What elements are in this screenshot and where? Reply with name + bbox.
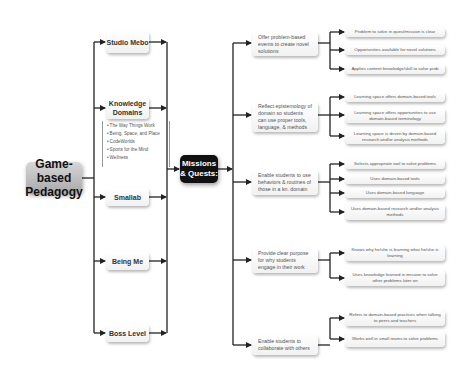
outcome-box: Uses domain-based language	[345, 188, 445, 198]
outcome-box: Problem to solve in quest/mission is cle…	[345, 27, 445, 37]
domain-item: Being, Space, and Place	[107, 130, 169, 138]
outcome-label: Knows why he/she is learning what he/she…	[348, 247, 442, 259]
component-studio-mebo: Studio Mebo	[106, 31, 149, 53]
outcome-box: Learning space is driven by domain-based…	[345, 129, 445, 144]
outcome-label: Uses domain-based research and/or analys…	[348, 206, 442, 218]
outcome-box: Uses knowledge learned in mission to sol…	[345, 270, 445, 286]
outcome-box: Applies content knowledge/skill to solve…	[345, 64, 445, 74]
outcome-label: Learning space offers opportunities to u…	[348, 110, 442, 122]
outcome-label: Opportunities available for novel soluti…	[354, 47, 435, 53]
goal-label: Reflect epistemology of domain so studen…	[258, 103, 312, 131]
outcome-label: Works well in small teams to solve probl…	[352, 336, 438, 342]
outcome-label: Learning space is driven by domain-based…	[348, 131, 442, 143]
outcome-box: Uses domain-based research and/or analys…	[345, 204, 445, 220]
outcome-box: Works well in small teams to solve probl…	[345, 331, 445, 347]
root-label: Game-based Pedagogy	[25, 157, 82, 199]
component-label: Smallab	[114, 193, 141, 202]
root-node-game-based-pedagogy: Game-based Pedagogy	[26, 162, 82, 194]
outcome-box: Learning space offers opportunities to u…	[345, 108, 445, 123]
outcome-label: Learning space offers domain-based tools	[354, 94, 436, 100]
goal-label: Enable students to collaborate with othe…	[258, 338, 312, 352]
domain-item: Sports for the Mind	[107, 146, 169, 154]
domain-item: The Way Things Work	[107, 122, 169, 130]
goal-reflect-epistemology: Reflect epistemology of domain so studen…	[252, 102, 318, 132]
component-knowledge-domains: Knowledge Domains	[106, 97, 149, 119]
outcome-box: Refers to domain-based practices when ta…	[345, 310, 445, 326]
domain-item: CodeWorlds	[107, 138, 169, 146]
goal-collaborate: Enable students to collaborate with othe…	[252, 335, 318, 355]
component-label: Being Me	[112, 257, 143, 266]
component-label: Knowledge Domains	[106, 99, 149, 117]
outcome-box: Learning space offers domain-based tools	[345, 92, 445, 102]
outcome-label: Uses domain-based tools	[370, 176, 420, 182]
component-boss-level: Boss Level	[106, 324, 149, 342]
outcome-label: Problem to solve in quest/mission is cle…	[355, 29, 436, 35]
outcome-box: Selects appropriate tool to solve proble…	[345, 159, 445, 169]
component-label: Boss Level	[109, 329, 146, 338]
hub-missions-quests: Missions & Quests:	[180, 155, 218, 183]
outcome-box: Opportunities available for novel soluti…	[345, 45, 445, 55]
knowledge-domains-list: The Way Things Work Being, Space, and Pl…	[102, 121, 170, 167]
goal-label: Provide clear purpose for why students e…	[258, 250, 312, 271]
goal-problem-based: Offer problem-based events to create nov…	[252, 32, 318, 56]
outcome-box: Uses domain-based tools	[345, 174, 445, 184]
component-being-me: Being Me	[106, 252, 149, 270]
outcome-label: Selects appropriate tool to solve proble…	[354, 161, 436, 167]
outcome-box: Knows why he/she is learning what he/she…	[345, 245, 445, 261]
domain-item: Wellness	[107, 154, 169, 162]
outcome-label: Uses knowledge learned in mission to sol…	[348, 272, 442, 284]
goal-clear-purpose: Provide clear purpose for why students e…	[252, 248, 318, 273]
goal-label: Offer problem-based events to create nov…	[258, 34, 312, 55]
component-label: Studio Mebo	[107, 38, 149, 47]
outcome-label: Applies content knowledge/skill to solve…	[351, 66, 438, 72]
outcome-label: Uses domain-based language	[366, 190, 424, 196]
component-smallab: Smallab	[106, 188, 149, 206]
goal-label: Enable students to use behaviors & routi…	[258, 172, 312, 193]
goal-behaviors-routines: Enable students to use behaviors & routi…	[252, 170, 318, 195]
outcome-label: Refers to domain-based practices when ta…	[348, 312, 442, 324]
hub-label: Missions & Quests:	[180, 159, 218, 179]
